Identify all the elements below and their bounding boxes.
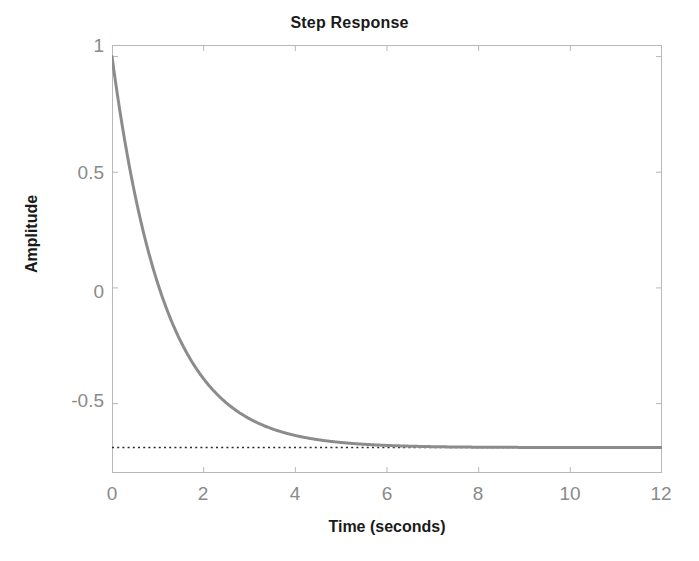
y-tick-label: -0.5 [71, 391, 104, 410]
axes-box [113, 46, 662, 473]
x-tick-label: 0 [107, 484, 118, 503]
y-tick-label: 0.5 [78, 163, 104, 182]
axis-ticks [112, 45, 662, 473]
y-tick-label: 1 [93, 36, 104, 55]
plot-area [112, 45, 662, 473]
x-tick-label: 6 [382, 484, 393, 503]
x-tick-label: 10 [559, 484, 580, 503]
plot-canvas [112, 45, 662, 473]
x-tick-label: 2 [198, 484, 209, 503]
x-tick-label: 4 [290, 484, 301, 503]
chart-title: Step Response [0, 14, 699, 32]
x-axis-label: Time (seconds) [112, 518, 662, 536]
y-tick-label: 0 [93, 282, 104, 301]
step-response-figure: Step Response Amplitude 1 0.5 0 -0.5 0 2… [0, 0, 699, 561]
step-response-curve [112, 57, 662, 448]
x-tick-label: 12 [650, 484, 671, 503]
x-axis-tick-labels: 0 2 4 6 8 10 12 [0, 484, 699, 514]
x-tick-label: 8 [473, 484, 484, 503]
y-axis-tick-labels: 1 0.5 0 -0.5 [30, 0, 104, 561]
